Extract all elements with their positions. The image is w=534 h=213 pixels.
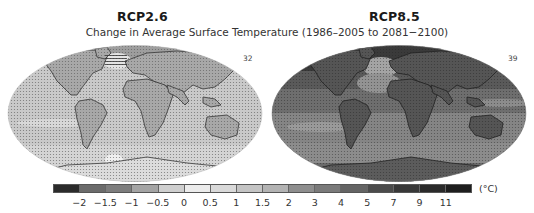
colorbar-tick-label: 2 <box>286 197 292 208</box>
colorbar-segment <box>446 185 471 192</box>
colorbar-segment <box>420 185 446 192</box>
colorbar-segment <box>315 185 341 192</box>
colorbar-segment <box>368 185 394 192</box>
colorbar-tick-label: 4 <box>338 197 344 208</box>
colorbar-tick-label: 0 <box>181 197 187 208</box>
colorbar-segment <box>211 185 237 192</box>
colorbar-segment <box>394 185 420 192</box>
colorbar-segment <box>132 185 158 192</box>
colorbar-segment <box>185 185 211 192</box>
colorbar-segment <box>263 185 289 192</box>
rcp26-temperature-map <box>7 45 263 182</box>
colorbar-segment <box>159 185 185 192</box>
rcp85-temperature-map <box>271 45 527 182</box>
colorbar-tick-label: 7 <box>390 197 396 208</box>
colorbar-tick-label: 0.5 <box>203 197 218 208</box>
rcp26-model-count: 32 <box>243 54 253 63</box>
rcp85-title: RCP8.5 <box>369 9 420 24</box>
colorbar-tick-label: −0.5 <box>146 197 169 208</box>
colorbar-tick-label: −2 <box>72 197 86 208</box>
colorbar-segment <box>106 185 132 192</box>
colorbar-tick-label: 11 <box>440 197 452 208</box>
colorbar-tick-label: −1.5 <box>94 197 117 208</box>
colorbar-tick-label: 1.5 <box>255 197 270 208</box>
figure-subtitle: Change in Average Surface Temperature (1… <box>0 26 534 38</box>
rcp26-title: RCP2.6 <box>117 9 168 24</box>
colorbar-segment <box>341 185 367 192</box>
colorbar-segment <box>54 185 80 192</box>
colorbar-tick-label: −1 <box>125 197 139 208</box>
colorbar-tick-label: 9 <box>417 197 423 208</box>
colorbar-tick-label: 1 <box>233 197 239 208</box>
colorbar-tick-label: 5 <box>364 197 370 208</box>
colorbar-segment <box>289 185 315 192</box>
colorbar-segment <box>237 185 263 192</box>
colorbar-segment <box>80 185 106 192</box>
temperature-colorbar <box>53 184 472 193</box>
rcp85-model-count: 39 <box>508 54 518 63</box>
colorbar-unit-label: (°C) <box>479 183 498 194</box>
colorbar-tick-label: 3 <box>312 197 318 208</box>
